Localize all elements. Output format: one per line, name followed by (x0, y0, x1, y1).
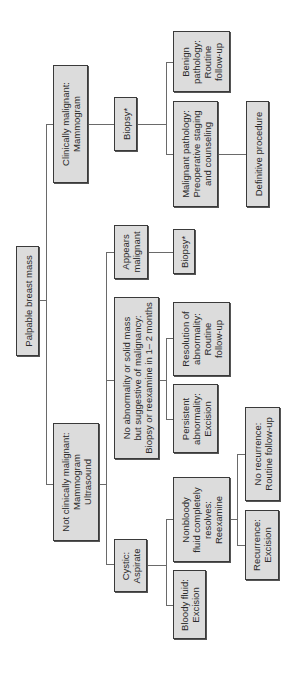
connector-to-recurrence (237, 545, 245, 546)
connector-cystic-out (147, 565, 166, 566)
connector-root-spine (46, 124, 47, 485)
node-label: Appears malignant (120, 231, 142, 272)
connector-to-nonbloody (166, 519, 173, 520)
node-label: Cystic: Aspirate (120, 548, 142, 583)
connector-nonbloody-spine (237, 454, 238, 545)
node-label: Biopsy* (120, 108, 131, 140)
node-label: Recurrence: Excision (251, 519, 273, 571)
connector-biopsy-out (137, 124, 166, 125)
node-label: Biopsy* (179, 235, 190, 267)
node-no-abnormality: No abnormality or solid mass but suggest… (114, 297, 159, 459)
node-cystic-aspirate: Cystic: Aspirate (114, 539, 147, 592)
connector-cystic-spine (166, 519, 167, 605)
connector-biopsy-spine (166, 62, 167, 154)
connector-to-bloody (166, 605, 173, 606)
node-label: Definitive procedure (252, 112, 263, 197)
connector-to-definitive (218, 154, 246, 155)
connector-appears-to-biopsy (148, 252, 173, 253)
node-label: Palpable breast mass (22, 255, 33, 346)
connector-nonbloody-out (230, 519, 237, 520)
node-appears-malignant: Appears malignant (114, 225, 148, 279)
node-recurrence: Recurrence: Excision (245, 510, 279, 580)
node-definitive-procedure: Definitive procedure (246, 101, 269, 207)
node-no-recurrence: No recurrence: Routine follow-up (245, 407, 280, 501)
node-nonbloody-fluid: Nonbloody fluid completely resolves: Ree… (173, 477, 230, 562)
connector-to-persistent (166, 419, 173, 420)
node-label: No abnormality or solid mass but suggest… (120, 302, 153, 454)
connector-no-abn-out (159, 380, 166, 381)
connector-to-resolution (166, 338, 173, 339)
node-label: No recurrence: Routine follow-up (252, 417, 274, 490)
connector-root (39, 300, 46, 301)
connector-to-no-recurrence (237, 454, 245, 455)
node-resolution-of-abnormality: Resolution of abnormality: Routine follo… (173, 302, 230, 376)
connector-to-clin-malignant (46, 124, 53, 125)
node-persistent-abnormality: Persistent abnormality: Excision (173, 384, 218, 453)
node-biopsy-1: Biopsy* (114, 97, 137, 151)
node-not-clinically-malignant: Not clinically malignant: Mammogram Ultr… (53, 423, 99, 541)
node-bloody-fluid: Bloody fluid: Excision (173, 570, 206, 639)
connector-not-clin-out (99, 484, 106, 485)
node-label: Malignant pathology: Preoperative stagin… (179, 110, 212, 198)
node-malignant-pathology: Malignant pathology: Preoperative stagin… (173, 101, 218, 207)
node-label: Persistent abnormality: Excision (179, 393, 212, 445)
node-label: Clinically malignant: Mammogram (60, 82, 82, 166)
node-label: Nonbloody fluid completely resolves: Ree… (180, 487, 224, 552)
node-label: Not clinically malignant: Mammogram Ultr… (60, 432, 93, 531)
node-biopsy-2: Biopsy* (173, 229, 195, 274)
connector-to-benign (166, 62, 173, 63)
node-palpable-breast-mass: Palpable breast mass (16, 246, 39, 356)
node-label: Benign pathology: Routine follow-up (180, 40, 224, 84)
connector-to-cystic (106, 564, 114, 565)
connector-to-no-abnormality (106, 380, 114, 381)
connector-not-clin-spine (106, 252, 107, 564)
connector-to-appears (106, 252, 114, 253)
node-label: Bloody fluid: Excision (179, 579, 201, 631)
connector-to-malignant-path (166, 154, 173, 155)
connector-clin-to-biopsy (88, 124, 114, 125)
connector-no-abn-spine (166, 338, 167, 419)
connector-to-not-clin-malignant (46, 484, 53, 485)
node-clinically-malignant: Clinically malignant: Mammogram (53, 65, 88, 183)
node-benign-pathology: Benign pathology: Routine follow-up (173, 31, 230, 92)
node-label: Resolution of abnormality: Routine follo… (180, 311, 224, 366)
